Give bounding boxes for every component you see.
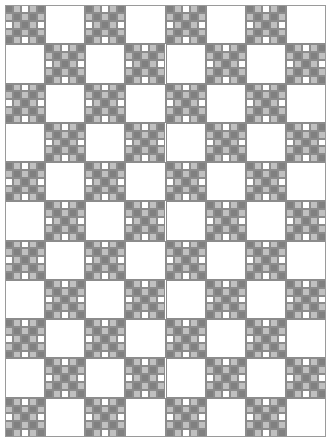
dark-patch [246, 162, 254, 170]
light-patch [246, 170, 254, 178]
dark-patch [318, 154, 326, 162]
white-patch [45, 60, 53, 68]
patch-grid [5, 5, 45, 44]
dark-patch [246, 241, 254, 249]
dark-patch [214, 52, 222, 60]
light-patch [37, 248, 45, 256]
plain-white-block [85, 201, 125, 240]
light-patch [149, 311, 157, 319]
dark-patch [109, 264, 117, 272]
dark-patch [294, 303, 302, 311]
light-patch [101, 264, 109, 272]
dark-patch [238, 44, 246, 52]
nine-patch-block [45, 358, 85, 397]
light-patch [37, 406, 45, 414]
dark-patch [230, 382, 238, 390]
nine-patch-block [45, 201, 85, 240]
dark-patch [270, 248, 278, 256]
plain-block-outline [45, 319, 85, 358]
light-patch [61, 131, 69, 139]
light-patch [141, 288, 149, 296]
dark-patch [198, 241, 206, 249]
light-patch [77, 209, 85, 217]
light-patch [29, 413, 37, 421]
nine-patch-block [206, 44, 246, 83]
dark-patch [222, 296, 230, 304]
dark-patch [125, 76, 133, 84]
light-patch [45, 366, 53, 374]
white-patch [101, 241, 109, 249]
dark-patch [174, 248, 182, 256]
dark-patch [85, 272, 93, 280]
light-patch [53, 139, 61, 147]
white-patch [101, 162, 109, 170]
dark-patch [5, 5, 13, 13]
white-patch [21, 5, 29, 13]
light-patch [141, 366, 149, 374]
white-patch [101, 351, 109, 359]
nine-patch-block [286, 201, 326, 240]
nine-patch-block [85, 162, 125, 201]
light-patch [101, 186, 109, 194]
plain-white-block [45, 162, 85, 201]
light-patch [254, 319, 262, 327]
plain-white-block [166, 44, 206, 83]
dark-patch [174, 406, 182, 414]
light-patch [198, 406, 206, 414]
patch-grid [246, 241, 286, 280]
white-patch [125, 296, 133, 304]
dark-patch [166, 351, 174, 359]
plain-white-block [45, 319, 85, 358]
light-patch [238, 146, 246, 154]
nine-patch-block [206, 201, 246, 240]
dark-patch [109, 343, 117, 351]
light-patch [69, 311, 77, 319]
light-patch [262, 29, 270, 37]
white-patch [37, 413, 45, 421]
dark-patch [77, 123, 85, 131]
plain-block-outline [45, 241, 85, 280]
white-patch [198, 256, 206, 264]
dark-patch [61, 296, 69, 304]
light-patch [174, 193, 182, 201]
light-patch [286, 303, 294, 311]
dark-patch [117, 272, 125, 280]
dark-patch [302, 60, 310, 68]
light-patch [254, 272, 262, 280]
patch-grid [5, 241, 45, 280]
plain-white-block [206, 319, 246, 358]
light-patch [206, 209, 214, 217]
plain-block-outline [85, 123, 125, 162]
white-patch [85, 335, 93, 343]
white-patch [182, 5, 190, 13]
light-patch [294, 76, 302, 84]
light-patch [222, 146, 230, 154]
dark-patch [85, 351, 93, 359]
light-patch [270, 36, 278, 44]
dark-patch [133, 52, 141, 60]
dark-patch [5, 398, 13, 406]
white-patch [45, 139, 53, 147]
dark-patch [93, 170, 101, 178]
dark-patch [85, 241, 93, 249]
dark-patch [286, 201, 294, 209]
light-patch [294, 217, 302, 225]
dark-patch [206, 233, 214, 241]
light-patch [21, 406, 29, 414]
light-patch [93, 162, 101, 170]
dark-patch [286, 358, 294, 366]
plain-block-outline [125, 162, 165, 201]
nine-patch-block [166, 398, 206, 437]
white-patch [222, 280, 230, 288]
dark-patch [93, 91, 101, 99]
light-patch [270, 413, 278, 421]
light-patch [69, 217, 77, 225]
dark-patch [294, 52, 302, 60]
light-patch [246, 107, 254, 115]
dark-patch [270, 107, 278, 115]
light-patch [85, 13, 93, 21]
plain-block-outline [246, 358, 286, 397]
dark-patch [101, 21, 109, 29]
light-patch [182, 170, 190, 178]
light-patch [166, 170, 174, 178]
